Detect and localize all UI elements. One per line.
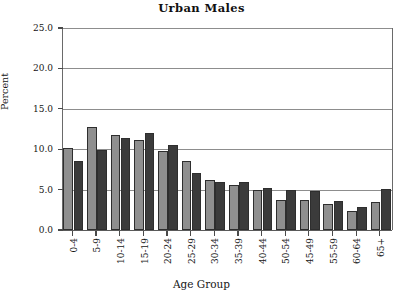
x-tick-label: 35-39 [234,238,244,264]
bar [74,161,84,230]
bar-group [347,28,371,230]
y-tick-label: 0.0 [7,225,53,235]
x-tick-label: 40-44 [258,238,268,264]
bar-group [158,28,182,230]
bar-group [276,28,300,230]
x-tick-mark [308,231,309,236]
bar [253,190,263,230]
x-tick-mark [285,231,286,236]
bar-group [181,28,205,230]
bar [276,200,286,230]
bar [310,191,320,230]
x-tick-mark [214,231,215,236]
x-tick-mark [95,231,96,236]
x-tick-label: 45-49 [305,238,315,264]
bar [286,190,296,230]
plot-area: 0.05.010.015.020.025.0 [62,28,393,230]
bar [111,135,121,230]
x-tick-label: 5-9 [92,238,102,253]
bar [205,180,215,230]
bar [182,161,192,230]
x-tick-label: 10-14 [116,238,126,264]
x-tick-mark [119,231,120,236]
y-axis-label: Percent [0,47,10,137]
bars-layer [63,28,392,230]
x-tick-mark [190,231,191,236]
x-tick-label: 65+ [376,238,386,257]
chart-title: Urban Males [0,1,403,15]
x-tick-label: 55-59 [329,238,339,264]
y-tick-label: 5.0 [7,185,53,195]
x-tick-mark [72,231,73,236]
y-tick-label: 15.0 [7,104,53,114]
bar-group [205,28,229,230]
x-tick-label: 15-19 [140,238,150,264]
x-tick-label: 20-24 [163,238,173,264]
x-tick-mark [166,231,167,236]
x-tick-label: 25-29 [187,238,197,264]
bar [334,201,344,230]
chart-page: Urban Males Percent 0.05.010.015.020.025… [0,0,403,299]
bar [263,188,273,230]
bar [300,200,310,230]
bar [347,211,357,230]
bar-group [63,28,87,230]
bar [239,182,249,230]
bar [97,150,107,230]
bar [87,127,97,230]
y-tick-label: 20.0 [7,63,53,73]
bar [371,202,381,230]
x-axis-label: Age Group [0,278,403,290]
bar [229,185,239,230]
x-tick-mark [332,231,333,236]
bar [192,173,202,230]
bar [158,151,168,230]
gridline [63,230,392,231]
bar [168,145,178,230]
bar [134,140,144,230]
x-tick-label: 60-64 [352,238,362,264]
bar [63,148,73,230]
bar-group [252,28,276,230]
x-tick-mark [356,231,357,236]
bar [323,204,333,230]
bar-group [110,28,134,230]
bar-group [134,28,158,230]
bar-group [370,28,394,230]
x-tick-mark [237,231,238,236]
bar-group [229,28,253,230]
bar [357,207,367,230]
bar [215,182,225,230]
bar-group [87,28,111,230]
x-tick-label: 50-54 [281,238,291,264]
bar-group [323,28,347,230]
x-tick-label: 30-34 [210,238,220,264]
x-tick-label: 0-4 [69,238,79,253]
y-tick-label: 25.0 [7,23,53,33]
bar-group [299,28,323,230]
bar [381,189,391,230]
x-tick-mark [261,231,262,236]
bar [145,133,155,230]
x-tick-mark [143,231,144,236]
x-tick-mark [379,231,380,236]
y-tick-label: 10.0 [7,144,53,154]
bar [121,138,131,230]
